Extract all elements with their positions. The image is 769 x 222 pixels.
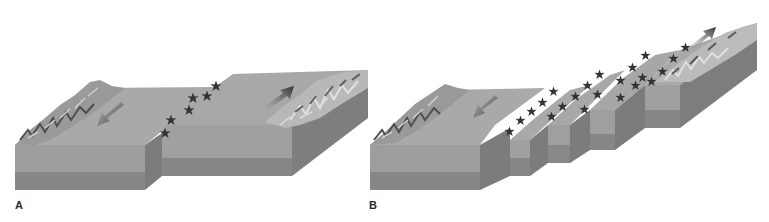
block-b5: [645, 23, 757, 128]
right-block-a: [162, 70, 368, 176]
panel-label-a: A: [15, 199, 23, 211]
panel-a: [15, 70, 368, 190]
panel-label-b: B: [369, 199, 377, 211]
earthquake-icon: [594, 69, 604, 79]
earthquake-icon: [640, 50, 650, 60]
panel-b: [370, 23, 757, 190]
earthquake-icon: [526, 106, 536, 116]
earthquake-icon: [515, 115, 525, 125]
earthquake-icon: [548, 86, 558, 96]
diagram-canvas: [0, 0, 769, 222]
earthquake-icon: [537, 97, 547, 107]
